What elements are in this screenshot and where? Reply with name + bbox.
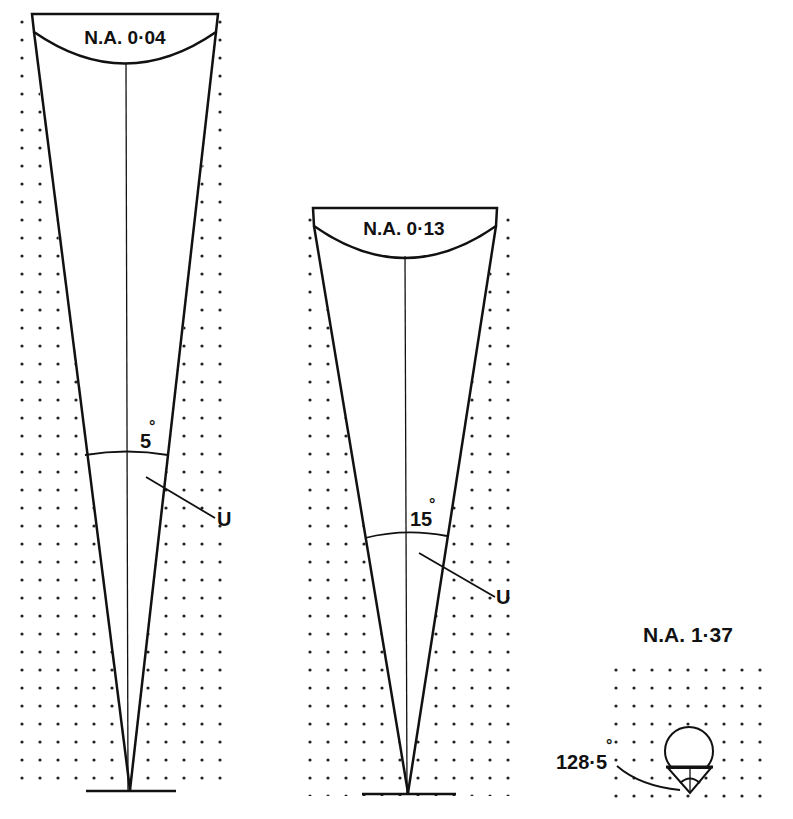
panel-na-004: N.A. 0·04 5 ° U [18, 14, 236, 794]
na-label: N.A. 1·37 [643, 623, 733, 646]
degree-symbol: ° [429, 496, 435, 513]
diagram-canvas: N.A. 0·04 5 ° U N.A. 0·13 15 ° U N.A. 1·… [0, 0, 793, 819]
angle-label: 128·5 [556, 751, 607, 773]
pointer-label: U [496, 586, 510, 608]
panel-na-013: N.A. 0·13 15 ° U [300, 208, 515, 796]
degree-symbol: ° [149, 418, 155, 435]
pointer-label: U [217, 508, 231, 530]
na-label: N.A. 0·13 [363, 218, 444, 239]
na-label: N.A. 0·04 [84, 27, 166, 48]
panel-na-137: N.A. 1·37 128·5 ° [556, 623, 776, 798]
degree-symbol: ° [606, 737, 612, 754]
